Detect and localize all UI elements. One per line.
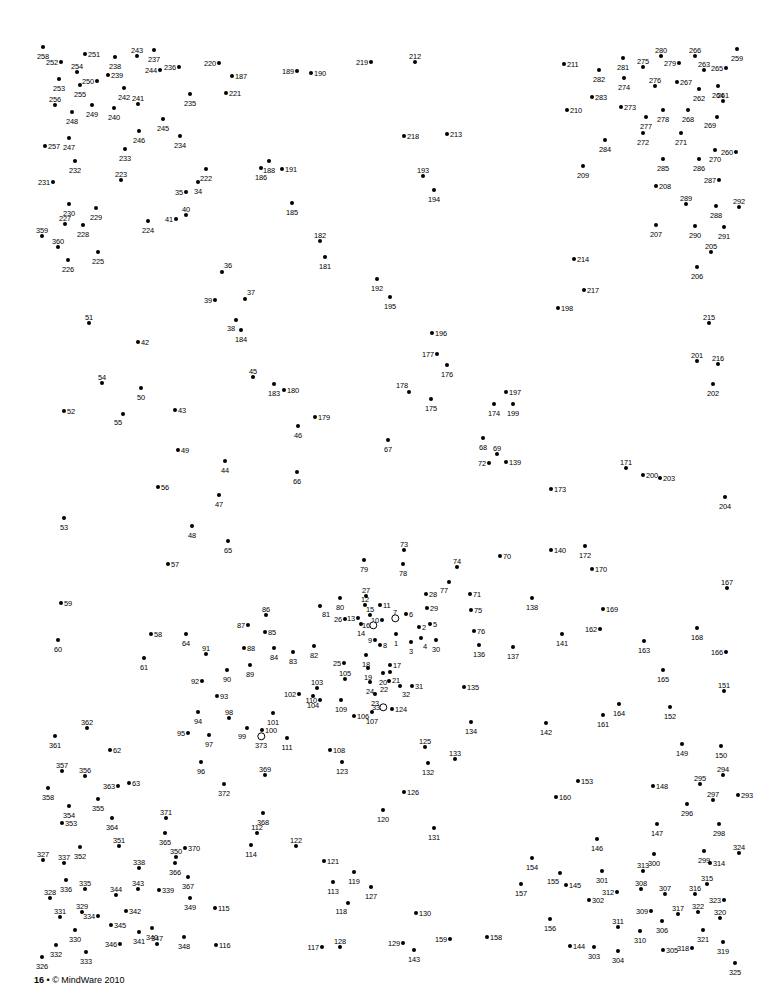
dot-label-356: 356	[79, 767, 91, 774]
dot-label-308: 308	[635, 880, 647, 887]
dot-marker-368	[261, 811, 265, 815]
dot-label-181: 181	[319, 263, 331, 270]
dot-marker-42	[136, 340, 140, 344]
dot-marker-185	[290, 201, 294, 205]
dot-label-26: 26	[334, 616, 342, 623]
dot-label-138: 138	[526, 604, 538, 611]
dot-label-50: 50	[137, 394, 145, 401]
dot-label-142: 142	[540, 729, 552, 736]
dot-marker-4	[419, 636, 423, 640]
dot-marker-107	[370, 710, 374, 714]
dot-label-260: 260	[721, 149, 733, 156]
dot-marker-92	[200, 679, 204, 683]
dot-label-335: 335	[79, 880, 91, 887]
dot-marker-257	[43, 144, 47, 148]
dot-marker-312	[615, 890, 619, 894]
dot-label-347: 347	[151, 935, 163, 942]
dot-label-157: 157	[515, 890, 527, 897]
dot-marker-273	[619, 105, 623, 109]
dot-marker-267	[675, 80, 679, 84]
dot-label-84: 84	[270, 654, 278, 661]
dot-marker-87	[246, 623, 250, 627]
dot-label-236: 236	[164, 64, 176, 71]
dot-label-113: 113	[327, 888, 338, 895]
dot-label-3: 3	[409, 648, 413, 655]
dot-label-176: 176	[441, 371, 453, 378]
dot-label-251: 251	[88, 51, 100, 58]
dot-marker-165	[661, 668, 665, 672]
dot-marker-141	[560, 632, 564, 636]
dot-label-134: 134	[465, 728, 477, 735]
dot-label-6: 6	[409, 611, 413, 618]
dot-marker-173	[549, 487, 553, 491]
dot-marker-70	[498, 554, 502, 558]
dot-label-349: 349	[184, 904, 196, 911]
dot-marker-117	[320, 945, 324, 949]
dot-label-151: 151	[718, 682, 730, 689]
dot-label-102: 102	[284, 691, 296, 698]
dot-label-36: 36	[224, 262, 232, 269]
dot-label-282: 282	[593, 76, 605, 83]
dot-marker-154	[530, 856, 534, 860]
dot-label-15: 15	[366, 606, 374, 613]
dot-marker-90	[225, 668, 229, 672]
dot-marker-149	[680, 742, 684, 746]
dot-marker-231	[51, 180, 55, 184]
dot-label-297: 297	[707, 791, 719, 798]
dot-label-76: 76	[477, 628, 485, 635]
dot-marker-168	[695, 626, 699, 630]
dot-marker-93	[215, 694, 219, 698]
dot-marker-177	[435, 352, 439, 356]
dot-label-329: 329	[76, 903, 88, 910]
dot-label-111: 111	[282, 744, 293, 751]
dot-label-129: 129	[388, 940, 400, 947]
dot-marker-301	[600, 869, 604, 873]
dot-label-25: 25	[333, 660, 341, 667]
dot-label-13: 13	[347, 615, 355, 622]
dot-marker-162	[598, 627, 602, 631]
dot-label-58: 58	[154, 631, 162, 638]
dot-label-83: 83	[289, 658, 297, 665]
dot-label-272: 272	[637, 139, 649, 146]
dot-label-314: 314	[713, 860, 725, 867]
dot-label-152: 152	[664, 713, 676, 720]
dot-label-327: 327	[37, 851, 49, 858]
dot-marker-75	[469, 608, 473, 612]
dot-label-190: 190	[314, 70, 326, 77]
dot-marker-251	[83, 52, 87, 56]
dot-label-115: 115	[218, 905, 229, 912]
dot-label-95: 95	[177, 730, 185, 737]
dot-label-8: 8	[383, 642, 387, 649]
dot-label-180: 180	[287, 387, 299, 394]
dot-marker-36	[220, 270, 224, 274]
dot-label-274: 274	[618, 84, 630, 91]
dot-marker-145	[564, 883, 568, 887]
dot-marker-101	[271, 711, 275, 715]
dot-label-60: 60	[54, 646, 62, 653]
dot-label-55: 55	[114, 419, 122, 426]
dot-label-137: 137	[507, 653, 519, 660]
dot-label-367: 367	[182, 883, 194, 890]
dot-label-172: 172	[579, 552, 591, 559]
dot-marker-353	[60, 821, 64, 825]
dot-label-254: 254	[71, 63, 83, 70]
dot-marker-38	[234, 318, 238, 322]
dot-label-203: 203	[663, 475, 675, 482]
dot-label-204: 204	[719, 503, 731, 510]
dot-marker-237	[152, 48, 156, 52]
dot-marker-60	[56, 638, 60, 642]
dot-label-323: 323	[709, 897, 721, 904]
dot-label-228: 228	[77, 231, 89, 238]
dot-label-258: 258	[37, 53, 49, 60]
dot-label-56: 56	[161, 484, 169, 491]
dot-marker-95	[186, 731, 190, 735]
dot-label-7: 7	[393, 609, 397, 616]
dot-label-89: 89	[246, 671, 254, 678]
dot-marker-48	[190, 524, 194, 528]
dot-label-53: 53	[60, 524, 68, 531]
dot-label-91: 91	[202, 645, 210, 652]
dot-marker-172	[583, 544, 587, 548]
dot-marker-169	[601, 607, 605, 611]
dot-label-277: 277	[640, 123, 652, 130]
dot-marker-228	[81, 223, 85, 227]
